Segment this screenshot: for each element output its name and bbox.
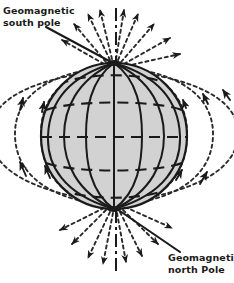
geomagnetic-diagram — [0, 0, 234, 283]
polar-ray-s-4 — [118, 14, 138, 60]
polar-ray-s-3 — [116, 10, 124, 59]
leader-line-south-pole — [46, 27, 111, 62]
field-arrow-right-upper-3 — [223, 90, 230, 100]
polar-ray-n-8 — [125, 207, 172, 228]
leader-line-north-pole — [117, 209, 180, 252]
polar-ray-n-2 — [103, 213, 113, 264]
field-arrow-right-upper-1 — [183, 100, 186, 108]
polar-ray-s-9 — [126, 54, 180, 66]
label-geomagnetic-north-pole: Geomagnetic north Pole — [168, 252, 234, 275]
field-arrow-left-upper-1 — [42, 102, 44, 112]
polar-field-rays-south — [62, 10, 180, 66]
polar-ray-n-5 — [123, 210, 158, 244]
label-geomagnetic-south-pole: Geomagnetic south pole — [3, 5, 75, 28]
polar-ray-n-1 — [88, 212, 110, 258]
geomagnetic-field-figure: Geomagnetic south pole Geomagnetic north… — [0, 0, 234, 283]
